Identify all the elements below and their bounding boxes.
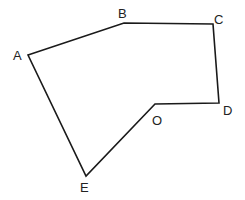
vertex-label-d: D bbox=[223, 103, 232, 118]
vertex-label-e: E bbox=[80, 180, 89, 195]
vertex-label-a: A bbox=[13, 48, 22, 63]
polygon-abcdoe bbox=[28, 23, 219, 176]
vertex-label-c: C bbox=[214, 12, 223, 27]
vertex-label-b: B bbox=[118, 6, 127, 21]
vertex-label-o: O bbox=[152, 113, 162, 128]
polygon-diagram: A B C D O E bbox=[0, 0, 245, 200]
vertex-labels: A B C D O E bbox=[13, 6, 232, 195]
